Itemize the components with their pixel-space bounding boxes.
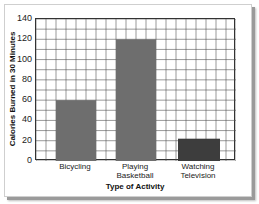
bar-playing-basketball [116, 39, 156, 161]
y-tick-label: 60 [22, 95, 32, 104]
x-axis-title: Type of Activity [106, 182, 165, 191]
plot-area [35, 18, 235, 160]
y-tick-label: 80 [22, 74, 32, 83]
x-category-label: Playing Basketball [105, 162, 165, 180]
bar-chart-grid [36, 19, 236, 161]
y-tick-label: 120 [17, 34, 32, 43]
y-tick-label: 100 [17, 54, 32, 63]
y-axis-title: Calories Burned in 30 Minutes [8, 32, 17, 147]
bar-watching-television [178, 139, 220, 161]
y-tick-label: 0 [27, 156, 32, 165]
bar-bicycling [56, 100, 96, 161]
x-category-label: Bicycling [45, 162, 105, 171]
y-tick-label: 40 [22, 115, 32, 124]
y-tick-label: 20 [22, 135, 32, 144]
x-category-label: Watching Television [168, 162, 228, 180]
y-tick-label: 140 [17, 14, 32, 23]
